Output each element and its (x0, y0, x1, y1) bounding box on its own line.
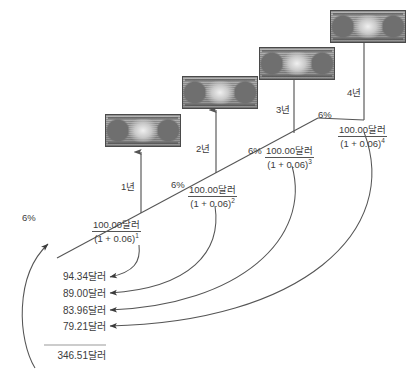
money-bill-year-3 (259, 47, 335, 80)
formula-numerator-3: 100.00달러 (265, 145, 314, 158)
present-value-1: 94.34달러 (38, 271, 106, 283)
present-value-2: 89.00달러 (38, 288, 106, 300)
bill-border-bottom (333, 38, 403, 40)
year-label-3: 3년 (276, 105, 290, 116)
bill-border-top (108, 117, 178, 119)
year-label-4: 4년 (347, 88, 361, 99)
discount-arcs (110, 132, 372, 326)
bill-border-top (262, 50, 332, 52)
formula-numerator-1: 100.00달러 (92, 219, 141, 232)
rate-label-1: 6% (171, 180, 185, 191)
bill-border-top (333, 13, 403, 15)
present-value-4: 79.21달러 (38, 321, 106, 333)
formula-denominator-4: (1 + 0.06)4 (338, 137, 387, 149)
rate-label-3: 6% (318, 110, 332, 121)
formula-denominator-3: (1 + 0.06)3 (265, 158, 314, 170)
discount-formula-4: 100.00달러 (1 + 0.06)4 (338, 124, 387, 150)
discount-formula-1: 100.00달러 (1 + 0.06)1 (92, 219, 141, 245)
formula-numerator-4: 100.00달러 (338, 124, 387, 137)
present-value-3: 83.96달러 (38, 305, 106, 317)
year-label-2: 2년 (196, 144, 210, 155)
formula-denominator-2: (1 + 0.06)2 (188, 197, 237, 209)
year-label-1: 1년 (121, 182, 135, 193)
formula-denominator-1: (1 + 0.06)1 (92, 232, 141, 244)
bill-border-top (185, 79, 255, 81)
discount-formula-3: 100.00달러 (1 + 0.06)3 (265, 145, 314, 171)
discount-formula-2: 100.00달러 (1 + 0.06)2 (188, 184, 237, 210)
rate-label-leading: 6% (22, 213, 36, 224)
present-value-diagram: 1년 2년 3년 4년 6% 6% 6% 6% 100.00달러 (1 + 0.… (0, 0, 420, 387)
formula-numerator-2: 100.00달러 (188, 184, 237, 197)
bill-border-bottom (108, 142, 178, 144)
money-bill-year-1 (105, 114, 181, 147)
money-bill-year-4 (330, 10, 406, 43)
total-present-value: 346.51달러 (38, 350, 106, 362)
money-bill-year-2 (182, 76, 258, 109)
rate-label-2: 6% (248, 146, 262, 157)
bill-border-bottom (262, 75, 332, 77)
bill-border-bottom (185, 104, 255, 106)
